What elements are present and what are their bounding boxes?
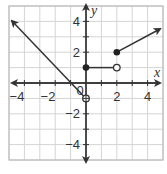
y-tick-label: 4 [73, 14, 80, 29]
open-point-2-1 [114, 64, 121, 71]
y-tick-label: −2 [65, 106, 80, 121]
right-ray [117, 29, 160, 52]
y-axis-label: y [89, 3, 98, 18]
x-tick-label: 4 [144, 89, 151, 104]
x-axis-label: x [153, 65, 161, 80]
x-tick-label: −4 [10, 89, 25, 104]
y-tick-label: 2 [73, 45, 80, 60]
y-tick-label: −4 [65, 137, 80, 152]
closed-point-2-2 [114, 49, 121, 56]
x-tick-label: −2 [41, 89, 56, 104]
coordinate-graph: −4 −2 0 2 4 4 2 −2 −4 x y [0, 0, 167, 174]
closed-point-0-1 [83, 64, 90, 71]
x-tick-label: 2 [113, 89, 120, 104]
